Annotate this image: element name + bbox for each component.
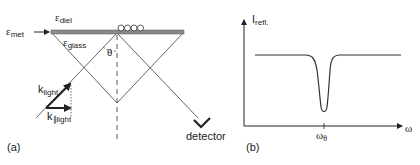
- panel-a-label: (a): [7, 141, 20, 153]
- eps-glass-label: εglass: [63, 36, 86, 50]
- detector-icon: [194, 118, 210, 127]
- metal-film: [51, 30, 184, 34]
- figure-canvas: εdiel εmet εglass θ klight k∥light detec…: [0, 0, 420, 165]
- panel-a-kretschmann-setup: εdiel εmet εglass θ klight k∥light detec…: [6, 11, 226, 153]
- reflectivity-curve: [255, 55, 401, 112]
- k-light-label: klight: [38, 83, 59, 97]
- k-parallel-label: k∥light: [47, 110, 72, 124]
- theta-label: θ: [107, 46, 112, 58]
- detector-label: detector: [186, 130, 226, 142]
- x-axis-label: ω: [405, 122, 412, 134]
- eps-met-label: εmet: [6, 25, 25, 39]
- panel-b-label: (b): [246, 141, 259, 153]
- panel-b-reflectivity-plot: Irefl. ω ωθ (b): [244, 13, 412, 153]
- omega-theta-label: ωθ: [316, 129, 327, 143]
- y-axis-label: Irefl.: [252, 13, 268, 27]
- eps-diel-label: εdiel: [55, 11, 72, 25]
